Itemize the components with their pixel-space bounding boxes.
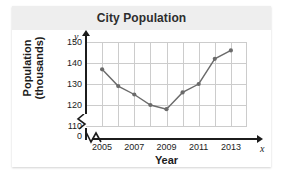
x-tick-labels: 20052007200920112013 bbox=[12, 30, 271, 167]
chart-title-band: City Population bbox=[12, 6, 271, 30]
x-tick-label: 2007 bbox=[119, 143, 149, 152]
chart-card: City Population y x bbox=[12, 6, 271, 167]
x-tick-label: 2013 bbox=[216, 143, 246, 152]
x-tick-label: 2011 bbox=[184, 143, 214, 152]
x-axis-title: Year bbox=[86, 154, 247, 166]
x-tick-label: 2009 bbox=[152, 143, 182, 152]
chart-area: y x 1101201301401500 2005200720092011201… bbox=[12, 30, 271, 167]
y-axis-title: Population (thousands) bbox=[21, 20, 45, 116]
y-axis-title-line-2: (thousands) bbox=[33, 20, 45, 116]
figure-root: City Population y x bbox=[0, 0, 283, 184]
x-tick-label: 2005 bbox=[87, 143, 117, 152]
y-axis-title-line-1: Population bbox=[21, 20, 33, 116]
page-title: City Population bbox=[97, 11, 187, 25]
